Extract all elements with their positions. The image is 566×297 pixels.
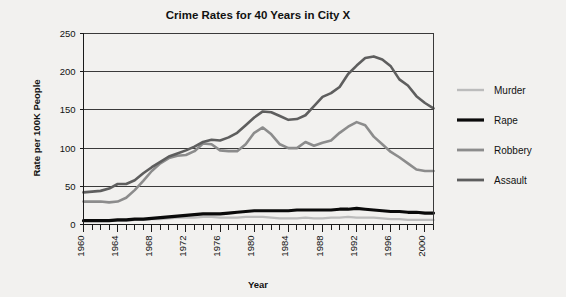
y-tick-label-50: 50 xyxy=(65,181,76,192)
crime-rates-chart: Crime Rates for 40 Years in City X 05010… xyxy=(0,0,566,297)
x-tick-label-2000: 2000 xyxy=(416,236,427,257)
legend-label-assault: Assault xyxy=(494,175,527,186)
x-axis-title: Year xyxy=(248,279,268,290)
x-tick-label-1960: 1960 xyxy=(75,236,86,257)
x-tick-label-1976: 1976 xyxy=(211,236,222,257)
y-tick-label-100: 100 xyxy=(60,143,76,154)
legend-label-rape: Rape xyxy=(494,115,518,126)
x-tick-label-1964: 1964 xyxy=(109,236,120,257)
x-tick-label-1968: 1968 xyxy=(143,236,154,257)
y-tick-label-250: 250 xyxy=(60,28,76,39)
legend-label-robbery: Robbery xyxy=(494,145,532,156)
x-tick-label-1988: 1988 xyxy=(314,236,325,257)
x-tick-label-1992: 1992 xyxy=(348,236,359,257)
y-tick-label-200: 200 xyxy=(60,66,76,77)
y-tick-label-0: 0 xyxy=(70,219,75,230)
y-axis-title: Rate per 100K People xyxy=(31,79,42,176)
chart-title: Crime Rates for 40 Years in City X xyxy=(166,9,351,21)
x-tick-label-1980: 1980 xyxy=(245,235,256,256)
x-tick-label-1984: 1984 xyxy=(279,236,290,257)
y-tick-label-150: 150 xyxy=(60,104,76,115)
x-tick-label-1996: 1996 xyxy=(382,236,393,257)
legend-label-murder: Murder xyxy=(494,85,526,96)
x-tick-label-1972: 1972 xyxy=(177,236,188,257)
chart-canvas: Crime Rates for 40 Years in City X 05010… xyxy=(0,0,566,297)
